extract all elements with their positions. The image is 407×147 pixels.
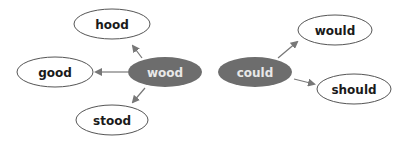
node-should-label: should bbox=[331, 83, 376, 97]
arrow-wood-to-stood bbox=[133, 88, 145, 102]
arrow-could-to-would bbox=[278, 42, 297, 58]
node-should: should bbox=[317, 74, 391, 104]
node-would-label: would bbox=[315, 24, 356, 38]
word-family-diagram: hood good wood stood could would should bbox=[0, 0, 407, 147]
arrow-wood-to-hood bbox=[133, 46, 142, 58]
node-hood-label: hood bbox=[95, 18, 129, 32]
node-could: could bbox=[218, 57, 292, 87]
node-good: good bbox=[17, 57, 93, 87]
node-wood: wood bbox=[128, 57, 202, 87]
node-stood-label: stood bbox=[93, 114, 131, 128]
arrow-could-to-should bbox=[294, 79, 314, 84]
node-stood: stood bbox=[76, 105, 148, 135]
node-could-label: could bbox=[237, 66, 274, 80]
node-hood: hood bbox=[74, 9, 150, 39]
node-good-label: good bbox=[38, 66, 72, 80]
node-would: would bbox=[298, 15, 372, 45]
node-wood-label: wood bbox=[147, 66, 183, 80]
